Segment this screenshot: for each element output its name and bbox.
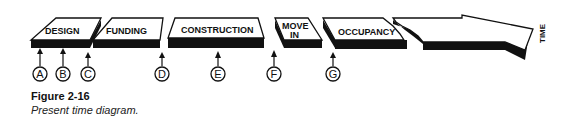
marker-letter-d: D	[158, 68, 166, 80]
marker-letter-c: C	[84, 68, 92, 80]
phase-label-move-in-line2: IN	[290, 30, 299, 40]
phase-block-move-in: MOVE IN	[275, 18, 322, 48]
phase-label-occupancy: OCCUPANCY	[338, 27, 395, 37]
phase-block-design: DESIGN	[31, 18, 101, 48]
time-arrow: TIME	[393, 15, 547, 60]
phase-label-construction: CONSTRUCTION	[181, 25, 254, 35]
marker-f: F	[267, 50, 281, 81]
phase-block-funding: FUNDING	[93, 18, 163, 48]
marker-c: C	[81, 52, 95, 81]
marker-e: E	[211, 51, 225, 81]
time-label: TIME	[538, 23, 547, 43]
marker-a: A	[33, 48, 47, 81]
marker-letter-e: E	[214, 68, 221, 80]
marker-b: B	[56, 48, 70, 81]
phase-label-design: DESIGN	[45, 26, 80, 36]
marker-letter-a: A	[36, 68, 44, 80]
figure-caption: Present time diagram.	[31, 104, 139, 116]
figure-number: Figure 2-16	[31, 90, 90, 102]
marker-letter-b: B	[59, 68, 66, 80]
phase-label-funding: FUNDING	[106, 26, 147, 36]
marker-g: G	[326, 52, 340, 81]
phase-block-construction: CONSTRUCTION	[168, 18, 264, 48]
marker-d: D	[155, 52, 169, 81]
marker-letter-f: F	[271, 68, 278, 80]
marker-letter-g: G	[329, 68, 338, 80]
